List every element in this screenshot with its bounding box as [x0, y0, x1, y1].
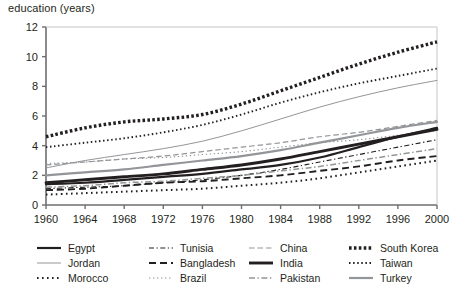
legend-label: Jordan — [68, 257, 100, 269]
legend-swatch-jordan-icon — [36, 257, 62, 269]
legend-label: India — [280, 257, 303, 269]
legend-item-jordan[interactable]: Jordan — [36, 255, 136, 270]
x-tick-label: 1984 — [268, 213, 292, 225]
legend-label: Brazil — [180, 272, 206, 284]
plot-area: 0246810121960196419681972197619801984198… — [0, 0, 457, 240]
legend-item-china[interactable]: China — [248, 240, 348, 255]
y-tick-label: 8 — [32, 80, 38, 92]
legend-swatch-egypt-icon — [36, 242, 62, 254]
legend-swatch-turkey-icon — [348, 272, 374, 284]
series-line-south-korea — [46, 42, 437, 137]
legend-label: Tunisia — [180, 242, 213, 254]
legend-column-4: South KoreaTaiwanTurkey — [348, 240, 448, 285]
legend-label: Morocco — [68, 272, 108, 284]
chart-legend: EgyptJordanMoroccoTunisiaBangladeshBrazi… — [0, 240, 457, 286]
legend-label: Turkey — [380, 272, 412, 284]
chart-container: education (years) 0246810121960196419681… — [0, 0, 457, 286]
x-tick-label: 1968 — [112, 213, 136, 225]
legend-item-morocco[interactable]: Morocco — [36, 270, 136, 285]
legend-swatch-tunisia-icon — [148, 242, 174, 254]
legend-label: China — [280, 242, 307, 254]
legend-item-turkey[interactable]: Turkey — [348, 270, 448, 285]
legend-label: South Korea — [380, 242, 438, 254]
legend-item-taiwan[interactable]: Taiwan — [348, 255, 448, 270]
x-tick-label: 2000 — [425, 213, 449, 225]
y-tick-label: 0 — [32, 199, 38, 211]
legend-column-1: EgyptJordanMorocco — [36, 240, 136, 285]
y-tick-label: 10 — [26, 51, 38, 63]
x-tick-label: 1964 — [73, 213, 97, 225]
legend-item-south-korea[interactable]: South Korea — [348, 240, 448, 255]
legend-label: Pakistan — [280, 272, 320, 284]
legend-item-pakistan[interactable]: Pakistan — [248, 270, 348, 285]
legend-column-3: ChinaIndiaPakistan — [248, 240, 348, 285]
y-tick-label: 6 — [32, 110, 38, 122]
legend-item-india[interactable]: India — [248, 255, 348, 270]
x-tick-label: 1960 — [34, 213, 58, 225]
legend-swatch-south-korea-icon — [348, 242, 374, 254]
legend-swatch-bangladesh-icon — [148, 257, 174, 269]
x-tick-label: 1980 — [229, 213, 253, 225]
legend-item-egypt[interactable]: Egypt — [36, 240, 136, 255]
legend-column-2: TunisiaBangladeshBrazil — [148, 240, 248, 285]
y-tick-label: 12 — [26, 21, 38, 33]
legend-swatch-brazil-icon — [148, 272, 174, 284]
x-tick-label: 1992 — [347, 213, 371, 225]
legend-item-tunisia[interactable]: Tunisia — [148, 240, 248, 255]
y-tick-label: 4 — [32, 140, 38, 152]
legend-item-bangladesh[interactable]: Bangladesh — [148, 255, 248, 270]
legend-swatch-taiwan-icon — [348, 257, 374, 269]
x-tick-label: 1988 — [307, 213, 331, 225]
y-tick-label: 2 — [32, 169, 38, 181]
legend-label: Bangladesh — [180, 257, 235, 269]
legend-swatch-india-icon — [248, 257, 274, 269]
x-tick-label: 1976 — [190, 213, 214, 225]
legend-swatch-morocco-icon — [36, 272, 62, 284]
legend-label: Taiwan — [380, 257, 413, 269]
series-line-taiwan — [46, 69, 437, 148]
legend-label: Egypt — [68, 242, 95, 254]
legend-item-brazil[interactable]: Brazil — [148, 270, 248, 285]
legend-swatch-china-icon — [248, 242, 274, 254]
x-tick-label: 1996 — [386, 213, 410, 225]
legend-swatch-pakistan-icon — [248, 272, 274, 284]
x-tick-label: 1972 — [151, 213, 175, 225]
